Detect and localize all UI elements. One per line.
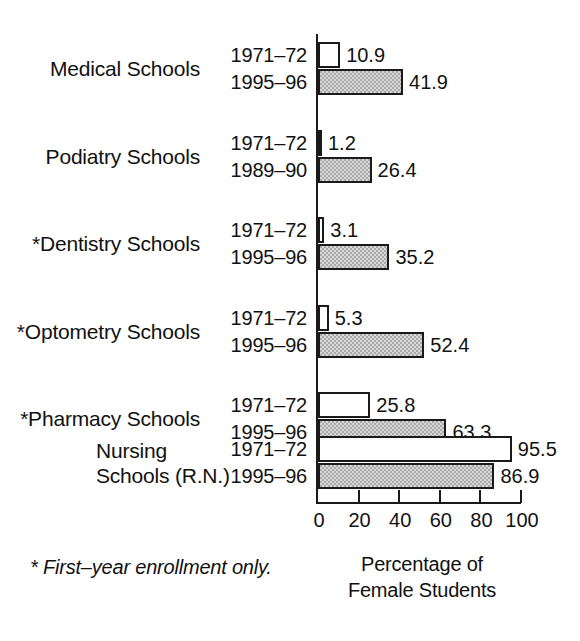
period-label: 1971–72 — [231, 219, 307, 241]
bar — [318, 130, 322, 156]
bar-value-label: 52.4 — [430, 332, 469, 358]
period-label: 1971–72 — [231, 44, 307, 66]
bar — [318, 42, 340, 68]
bar-value-label: 3.1 — [330, 217, 358, 243]
period-label: 1971–72 — [231, 307, 307, 329]
bar — [318, 436, 512, 462]
x-axis-tick — [479, 490, 481, 503]
category-label: Medical Schools — [50, 56, 200, 81]
bar — [318, 244, 389, 270]
period-label: 1971–72 — [231, 438, 307, 460]
category-label: Nursing Schools (R.N.) — [96, 438, 230, 488]
x-axis-tick-label: 80 — [461, 509, 501, 531]
bar-chart: Medical Schools1971–7210.91995–9641.9Pod… — [0, 0, 580, 641]
category-label: *Optometry Schools — [17, 319, 200, 344]
bar — [318, 332, 424, 358]
bar-value-label: 25.8 — [376, 392, 415, 418]
bar-value-label: 35.2 — [395, 244, 434, 270]
bar — [318, 69, 403, 95]
x-axis-tick — [398, 490, 400, 503]
x-axis-tick — [520, 490, 522, 503]
period-label: 1971–72 — [231, 394, 307, 416]
x-axis-tick-label: 0 — [299, 509, 339, 531]
x-axis-tick-label: 60 — [421, 509, 461, 531]
bar-value-label: 95.5 — [518, 436, 557, 462]
category-label: *Pharmacy Schools — [20, 406, 200, 431]
bar-value-label: 1.2 — [328, 130, 356, 156]
bar — [318, 157, 372, 183]
x-axis-title-line1: Percentage of — [318, 551, 526, 577]
footnote: * First–year enrollment only. — [30, 556, 272, 579]
x-axis-tick-label: 100 — [502, 509, 542, 531]
y-axis-line — [316, 34, 318, 504]
x-axis-tick — [358, 490, 360, 503]
x-axis-title: Percentage ofFemale Students — [318, 551, 526, 603]
bar — [318, 217, 324, 243]
bar-value-label: 26.4 — [378, 157, 417, 183]
x-axis-tick — [439, 490, 441, 503]
bar — [318, 305, 329, 331]
period-label: 1995–96 — [231, 334, 307, 356]
bar — [318, 392, 370, 418]
x-axis-line — [316, 502, 521, 504]
period-label: 1995–96 — [231, 71, 307, 93]
x-axis-title-line2: Female Students — [318, 577, 526, 603]
x-axis-tick-label: 20 — [340, 509, 380, 531]
bar — [318, 463, 494, 489]
bar-value-label: 5.3 — [335, 305, 363, 331]
period-label: 1989–90 — [231, 159, 307, 181]
bar-value-label: 86.9 — [500, 463, 539, 489]
bar-value-label: 41.9 — [409, 69, 448, 95]
period-label: 1995–96 — [231, 465, 307, 487]
category-label: Podiatry Schools — [46, 144, 200, 169]
period-label: 1995–96 — [231, 246, 307, 268]
x-axis-tick-label: 40 — [380, 509, 420, 531]
bar-value-label: 10.9 — [346, 42, 385, 68]
category-label: *Dentistry Schools — [32, 231, 200, 256]
period-label: 1971–72 — [231, 132, 307, 154]
